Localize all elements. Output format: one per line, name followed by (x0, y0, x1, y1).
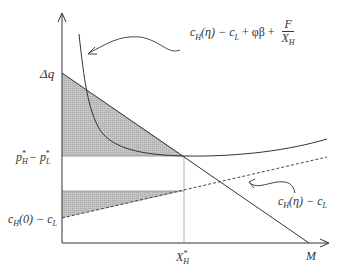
dashed-pointer-arrowhead-icon (249, 179, 255, 188)
upper-curve-pointer (89, 37, 180, 53)
x-star-label: XH* (176, 250, 187, 266)
dashed-line-label: cH(η) − cL (278, 195, 327, 210)
delta-q-label: Δq (40, 67, 54, 80)
dashed-line-pointer (250, 182, 295, 193)
demand-line (62, 73, 309, 243)
price-gap-label: pH* − pL* (16, 150, 49, 166)
m-axis-label: M (306, 250, 316, 262)
cost-gap-zero-label: cH(0) − cL (8, 213, 57, 228)
lower-shaded-region (62, 191, 184, 218)
upper-curve-label: cH(η) − cL + φβ + FXH (190, 18, 297, 49)
upper-pointer-arrowhead-icon (88, 47, 97, 54)
